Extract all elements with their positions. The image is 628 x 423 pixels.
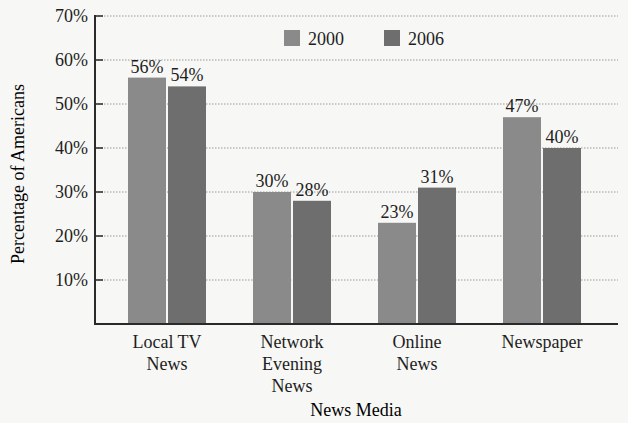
bar-value-label: 30% xyxy=(256,171,289,191)
y-tick-label: 40% xyxy=(55,138,88,158)
bar-2000 xyxy=(128,78,166,324)
y-tick-label: 30% xyxy=(55,182,88,202)
legend: 20002006 xyxy=(284,29,444,49)
category-label: News xyxy=(272,376,313,396)
category-label: Evening xyxy=(262,354,322,374)
bar-2000 xyxy=(253,192,291,324)
y-tick-label: 20% xyxy=(55,226,88,246)
x-axis-title: News Media xyxy=(310,400,401,420)
category-label: Online xyxy=(393,332,442,352)
category-label: News xyxy=(397,354,438,374)
legend-swatch xyxy=(384,30,400,46)
y-tick-label: 60% xyxy=(55,50,88,70)
bar-2000 xyxy=(503,117,541,324)
bar-2006 xyxy=(418,188,456,324)
bar-2006 xyxy=(293,201,331,324)
bar-value-label: 31% xyxy=(421,167,454,187)
legend-swatch xyxy=(284,30,300,46)
y-tick-label: 70% xyxy=(55,6,88,26)
bar-2006 xyxy=(168,86,206,324)
category-label: News xyxy=(147,354,188,374)
bar-2006 xyxy=(543,148,581,324)
category-label: Local TV xyxy=(132,332,201,352)
y-axis-title: Percentage of Americans xyxy=(8,84,28,264)
y-tick-label: 50% xyxy=(55,94,88,114)
bar-value-label: 28% xyxy=(296,180,329,200)
bar-value-label: 23% xyxy=(381,202,414,222)
bar-value-label: 56% xyxy=(131,57,164,77)
y-tick-label: 10% xyxy=(55,270,88,290)
category-label: Network xyxy=(261,332,324,352)
bar-2000 xyxy=(378,223,416,324)
legend-label: 2000 xyxy=(308,29,344,49)
bar-value-label: 47% xyxy=(506,96,539,116)
bar-value-label: 54% xyxy=(171,65,204,85)
y-tick-labels: 10%20%30%40%50%60%70% xyxy=(55,6,88,290)
bar-value-label: 40% xyxy=(546,127,579,147)
category-labels: Local TVNewsNetworkEveningNewsOnlineNews… xyxy=(132,332,582,396)
category-label: Newspaper xyxy=(502,332,583,352)
bar-chart: 56%54%30%28%23%31%47%40% 10%20%30%40%50%… xyxy=(0,0,628,423)
bars: 56%54%30%28%23%31%47%40% xyxy=(128,57,581,324)
legend-label: 2006 xyxy=(408,29,444,49)
